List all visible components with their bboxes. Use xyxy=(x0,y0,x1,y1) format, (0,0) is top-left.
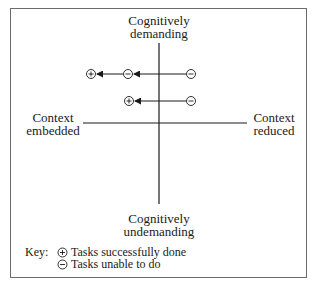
top-label-line2: demanding xyxy=(119,27,199,40)
top-axis-label: Cognitively demanding xyxy=(119,14,199,40)
legend-label-unable: Tasks unable to do xyxy=(71,259,160,270)
key-prefix: Key: xyxy=(25,247,55,258)
bottom-label-line2: undemanding xyxy=(114,225,204,238)
plus-circle-icon xyxy=(87,70,96,79)
right-label-line2: reduced xyxy=(248,124,300,137)
legend-label-success: Tasks successfully done xyxy=(71,247,186,258)
plus-circle-icon xyxy=(55,246,69,258)
minus-circle-icon xyxy=(55,258,69,270)
right-axis-label: Context reduced xyxy=(248,111,300,137)
left-axis-label: Context embedded xyxy=(18,111,88,137)
bottom-axis-label: Cognitively undemanding xyxy=(114,212,204,238)
minus-circle-icon xyxy=(187,97,196,106)
minus-circle-icon xyxy=(124,70,133,79)
left-label-line2: embedded xyxy=(18,124,88,137)
legend-key: Key: Tasks successfully done Tasks unabl… xyxy=(25,246,186,270)
plus-circle-icon xyxy=(125,97,134,106)
legend-item-unable: Tasks unable to do xyxy=(25,258,186,270)
minus-circle-icon xyxy=(187,70,196,79)
